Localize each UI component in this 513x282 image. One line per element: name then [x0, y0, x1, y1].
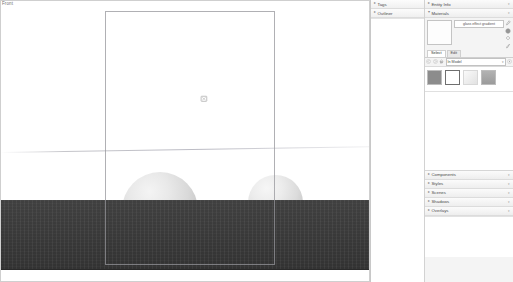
panel-header-tags[interactable]: ▸ Tags	[371, 0, 424, 9]
tab-select[interactable]: Select	[427, 50, 446, 57]
panel-header-entity-info[interactable]: ▸ Entity Info ▾	[425, 0, 513, 9]
panel-header-components[interactable]: ▸ Components ▾	[425, 171, 513, 180]
tab-edit[interactable]: Edit	[447, 50, 462, 57]
view-orientation-label: Front	[2, 1, 13, 6]
materials-tabs: Select Edit	[425, 50, 513, 58]
left-tray: ▸ Tags ▸ Outliner	[371, 0, 425, 282]
brush-icon[interactable]	[505, 43, 511, 49]
selection-bounding-box[interactable]	[105, 11, 275, 265]
material-tools-column	[504, 19, 512, 49]
material-swatch[interactable]	[463, 70, 478, 85]
panel-grip-icon[interactable]	[417, 1, 422, 7]
panel-title-outliner: Outliner	[377, 11, 417, 16]
nav-forward-icon[interactable]	[433, 59, 438, 64]
panel-title-materials: Materials	[431, 11, 506, 16]
panel-header-styles[interactable]: ▸ Styles ▾	[425, 180, 513, 189]
nav-back-icon[interactable]	[426, 59, 431, 64]
material-name-wrap: glass effect gradient	[454, 20, 504, 49]
material-preview-swatch[interactable]	[427, 20, 452, 45]
panel-menu-icon[interactable]: ▾	[506, 182, 511, 186]
material-list-empty-area[interactable]	[425, 92, 513, 170]
panel-menu-icon[interactable]: ▾	[506, 173, 511, 177]
material-swatch-selected[interactable]	[445, 70, 460, 85]
material-library-bar: In Model ▾	[425, 58, 513, 67]
panel-menu-icon[interactable]: ▾	[506, 200, 511, 204]
panel-title-scenes: Scenes	[431, 190, 506, 195]
globe-icon[interactable]	[505, 28, 511, 34]
material-name-field[interactable]: glass effect gradient	[454, 20, 504, 28]
panel-title-overlays: Overlays	[431, 208, 506, 213]
panel-menu-icon[interactable]: ▾	[506, 191, 511, 195]
ground-plane-edge	[0, 269, 370, 270]
home-icon[interactable]	[439, 59, 444, 64]
3d-viewport[interactable]: Front	[0, 0, 371, 282]
left-tray-empty-area	[371, 18, 424, 282]
material-swatch[interactable]	[427, 70, 442, 85]
panel-header-overlays[interactable]: ▸ Overlays ▾	[425, 207, 513, 216]
eyedropper-icon[interactable]	[505, 20, 511, 26]
paint-bucket-icon[interactable]	[505, 35, 511, 41]
panel-title-tags: Tags	[377, 2, 417, 7]
panel-title-shadows: Shadows	[431, 199, 506, 204]
panel-menu-icon[interactable]: ▾	[506, 2, 511, 6]
panel-menu-icon[interactable]: ▾	[506, 11, 511, 15]
chevron-down-icon[interactable]: ▾	[502, 59, 505, 65]
material-preview-row: glass effect gradient	[425, 18, 513, 50]
panel-title-components: Components	[431, 172, 506, 177]
material-swatch[interactable]	[481, 70, 496, 85]
paint-bucket-cursor-icon	[200, 94, 209, 103]
collapsed-panel-stack: ▸ Components ▾ ▸ Styles ▾ ▸ Scenes ▾ ▸ S…	[425, 170, 513, 216]
right-tray-empty-area	[425, 216, 513, 257]
material-library-select[interactable]: In Model ▾	[446, 58, 506, 66]
material-swatch-grid	[425, 67, 513, 92]
details-arrow-icon[interactable]	[507, 59, 512, 64]
panel-title-entity-info: Entity Info	[431, 2, 506, 7]
panel-header-scenes[interactable]: ▸ Scenes ▾	[425, 189, 513, 198]
panel-header-shadows[interactable]: ▸ Shadows ▾	[425, 198, 513, 207]
right-tray: ▸ Entity Info ▾ ▾ Materials ▾ glass effe…	[425, 0, 513, 282]
panel-header-outliner[interactable]: ▸ Outliner	[371, 9, 424, 18]
panel-menu-icon[interactable]: ▾	[506, 209, 511, 213]
materials-panel-body: glass effect gradient	[425, 18, 513, 170]
panel-title-styles: Styles	[431, 181, 506, 186]
application-window: Front ▸ Tags ▸ Outliner	[0, 0, 513, 282]
panel-grip-icon[interactable]	[417, 10, 422, 16]
material-library-value: In Model	[448, 59, 462, 65]
panel-header-materials[interactable]: ▾ Materials ▾	[425, 9, 513, 18]
